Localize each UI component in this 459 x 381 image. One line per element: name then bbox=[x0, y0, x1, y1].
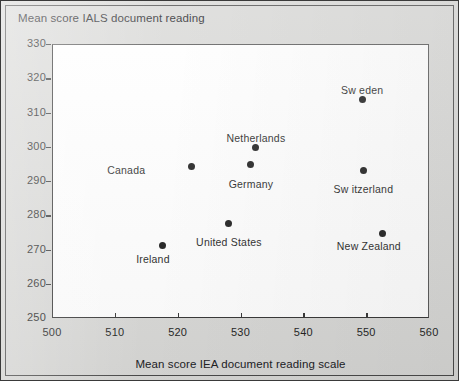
y-axis-tick-mark bbox=[46, 78, 51, 79]
data-point-label: Sw itzerland bbox=[334, 183, 394, 195]
y-axis-tick-mark bbox=[46, 147, 51, 148]
x-axis-tick-label: 560 bbox=[420, 326, 439, 338]
y-axis-tick-label: 260 bbox=[27, 277, 46, 289]
data-point bbox=[188, 163, 195, 170]
data-point bbox=[379, 230, 386, 237]
x-axis-tick-label: 540 bbox=[294, 326, 313, 338]
data-point-label: New Zealand bbox=[337, 240, 401, 252]
y-axis-tick-label: 290 bbox=[27, 174, 46, 186]
y-axis-tick-label: 280 bbox=[27, 208, 46, 220]
x-axis-tick-mark bbox=[303, 313, 304, 318]
data-point bbox=[247, 161, 254, 168]
x-axis-tick-mark bbox=[241, 313, 242, 318]
x-axis-tick-mark bbox=[115, 313, 116, 318]
x-axis-tick-mark bbox=[366, 313, 367, 318]
data-point-label: Canada bbox=[107, 164, 145, 176]
data-point-label: United States bbox=[196, 236, 262, 248]
data-point-label: Ireland bbox=[136, 253, 170, 265]
plot-area: IrelandCanadaUnited StatesGermanyNetherl… bbox=[52, 44, 429, 318]
data-point bbox=[359, 96, 366, 103]
chart-figure: Mean score IALS document reading 2502602… bbox=[0, 0, 459, 381]
y-axis-tick-label: 270 bbox=[27, 243, 46, 255]
y-axis-tick-mark bbox=[46, 284, 51, 285]
x-axis-tick-label: 520 bbox=[168, 326, 187, 338]
y-axis-tick-label: 320 bbox=[27, 71, 46, 83]
x-axis-tick-label: 510 bbox=[105, 326, 124, 338]
data-point-label: Sw eden bbox=[341, 84, 383, 96]
data-point-label: Netherlands bbox=[227, 132, 286, 144]
x-axis-tick-mark bbox=[178, 313, 179, 318]
y-axis-tick-label: 300 bbox=[27, 140, 46, 152]
y-axis-tick-mark bbox=[46, 181, 51, 182]
data-point bbox=[225, 220, 232, 227]
x-axis-tick-label: 550 bbox=[357, 326, 376, 338]
data-point bbox=[252, 144, 259, 151]
x-axis-tick-label: 530 bbox=[231, 326, 250, 338]
y-axis-tick-mark bbox=[46, 250, 51, 251]
data-point-label: Germany bbox=[229, 178, 274, 190]
data-point bbox=[159, 242, 166, 249]
y-axis-tick-label: 310 bbox=[27, 106, 46, 118]
chart-title: Mean score IALS document reading bbox=[18, 12, 205, 24]
y-axis-tick-labels: 250260270280290300310320330 bbox=[13, 1, 46, 381]
y-axis-tick-label: 330 bbox=[27, 37, 46, 49]
x-axis-title: Mean score IEA document reading scale bbox=[52, 358, 429, 370]
x-axis-tick-label: 500 bbox=[43, 326, 62, 338]
y-axis-tick-mark bbox=[46, 215, 51, 216]
data-point bbox=[360, 167, 367, 174]
y-axis-tick-label: 250 bbox=[27, 311, 46, 323]
y-axis-tick-mark bbox=[46, 44, 51, 45]
y-axis-tick-mark bbox=[46, 113, 51, 114]
